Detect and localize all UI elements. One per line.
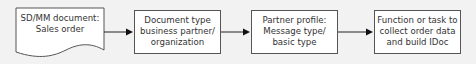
arrowhead-icon bbox=[366, 29, 373, 36]
label-line: Partner profile: bbox=[251, 15, 338, 26]
label-line: basic type bbox=[251, 37, 338, 48]
label-line: business partner/ bbox=[134, 26, 221, 37]
arrowhead-icon bbox=[126, 29, 133, 36]
document-type-label: Document type business partner/ organiza… bbox=[134, 15, 221, 48]
label-line: collect order data bbox=[374, 26, 461, 37]
label-line: organization bbox=[134, 37, 221, 48]
edge-3 bbox=[338, 29, 373, 36]
label-line: Sales order bbox=[16, 24, 104, 35]
label-line: Function or task to bbox=[374, 15, 461, 26]
edge-1 bbox=[104, 29, 133, 36]
function-task-label: Function or task to collect order data a… bbox=[374, 15, 461, 48]
arrowhead-icon bbox=[243, 29, 250, 36]
partner-profile-label: Partner profile: Message type/ basic typ… bbox=[251, 15, 338, 48]
label-line: and build IDoc bbox=[374, 37, 461, 48]
sales-order-document-label: SD/MM document: Sales order bbox=[16, 13, 104, 35]
label-line: SD/MM document: bbox=[16, 13, 104, 24]
edge-2 bbox=[221, 29, 250, 36]
label-line: Document type bbox=[134, 15, 221, 26]
label-line: Message type/ bbox=[251, 26, 338, 37]
